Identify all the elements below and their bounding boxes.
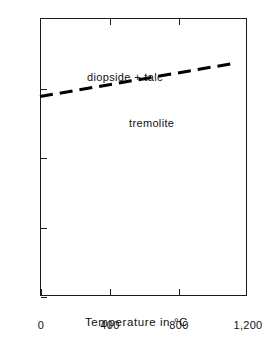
x-axis-title: Temperature in °C [0, 316, 273, 328]
chart-figure: Pressure in kilobars 0 10 20 30 40 0 400… [0, 0, 273, 338]
x-tick-top-400 [110, 19, 111, 25]
y-tick-10 [41, 228, 47, 229]
x-tick-800 [179, 289, 180, 295]
x-tick-0 [41, 289, 42, 295]
plot-area: 0 10 20 30 40 0 400 800 1,200 diopside +… [40, 18, 247, 296]
annotation-tremolite: tremolite [129, 117, 174, 129]
annotation-diopside-talc: diopside + talc [87, 71, 163, 83]
y-tick-0 [41, 297, 47, 298]
x-tick-400 [110, 289, 111, 295]
y-tick-20 [41, 158, 47, 159]
x-tick-top-800 [179, 19, 180, 25]
y-tick-30 [41, 89, 47, 90]
